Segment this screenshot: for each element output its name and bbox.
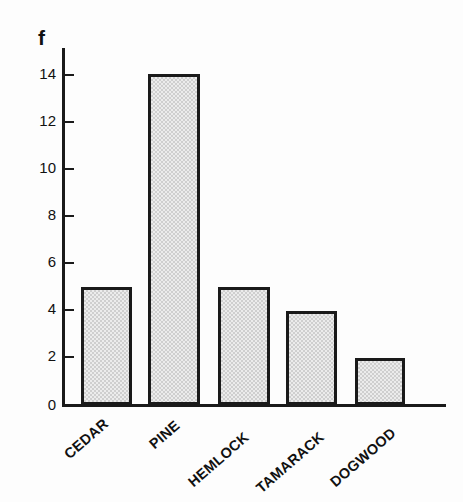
bar-dogwood: [355, 358, 405, 405]
y-tick-label-10: 10: [26, 160, 56, 175]
x-tick-label-hemlock: HEMLOCK: [185, 429, 252, 490]
x-tick-label-tamarack: TAMARACK: [253, 429, 327, 496]
bar-cedar: [81, 287, 132, 405]
y-tick-12: [65, 121, 74, 123]
x-tick-label-pine: PINE: [146, 417, 183, 452]
y-tick-4: [65, 309, 74, 311]
y-axis-line: [62, 48, 65, 407]
y-tick-8: [65, 215, 74, 217]
bar-tamarack: [286, 311, 337, 405]
x-tick-label-dogwood: DOGWOOD: [327, 425, 399, 490]
y-tick-14: [65, 74, 74, 76]
bar-pine: [148, 74, 200, 405]
y-axis-title: f: [38, 26, 45, 50]
y-tick-6: [65, 262, 74, 264]
y-tick-label-8: 8: [26, 207, 56, 222]
bar-hemlock: [218, 287, 270, 405]
y-tick-10: [65, 168, 74, 170]
y-tick-label-14: 14: [26, 66, 56, 81]
y-tick-label-2: 2: [26, 348, 56, 363]
bar-chart: f 14 12 10 8 6 4 2 0 CEDAR PINE HEMLOCK …: [0, 0, 463, 502]
y-tick-label-4: 4: [26, 301, 56, 316]
x-tick-label-cedar: CEDAR: [61, 416, 111, 463]
y-tick-2: [65, 356, 74, 358]
y-tick-label-0: 0: [26, 397, 56, 412]
y-tick-label-12: 12: [26, 113, 56, 128]
y-tick-label-6: 6: [26, 254, 56, 269]
